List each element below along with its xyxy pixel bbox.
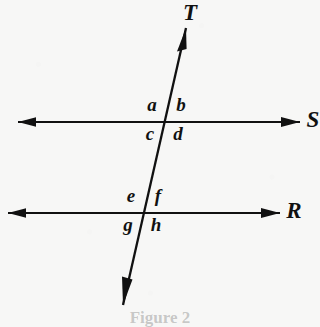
line-r-arrowhead-right bbox=[261, 208, 280, 218]
angle-label-d: d bbox=[173, 124, 183, 143]
line-s-arrowhead-right bbox=[281, 117, 300, 127]
angle-label-b: b bbox=[176, 95, 186, 114]
angle-label-h: h bbox=[151, 215, 162, 234]
line-label-t: T bbox=[183, 1, 197, 24]
line-s-arrowhead-left bbox=[18, 117, 36, 127]
angle-label-a: a bbox=[147, 95, 157, 114]
line-t bbox=[122, 28, 187, 305]
line-t-arrowhead-bottom bbox=[122, 277, 133, 306]
line-r-arrowhead-left bbox=[8, 208, 26, 218]
angle-label-e: e bbox=[127, 186, 135, 205]
line-label-r: R bbox=[286, 199, 301, 222]
angle-label-g: g bbox=[123, 215, 133, 234]
angle-label-f: f bbox=[155, 186, 161, 205]
angle-label-c: c bbox=[146, 124, 154, 143]
figure-caption: Figure 2 bbox=[130, 309, 191, 326]
line-t-arrowhead-top bbox=[177, 28, 187, 52]
line-s bbox=[18, 117, 300, 127]
line-label-s: S bbox=[307, 108, 320, 131]
line-t-segment bbox=[123, 28, 186, 305]
